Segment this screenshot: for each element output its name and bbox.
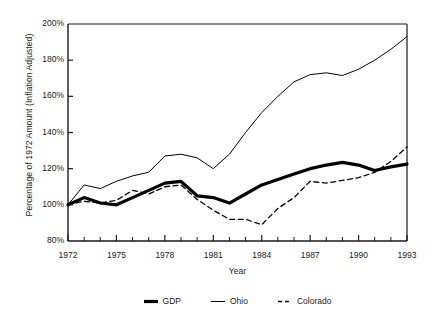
legend-item-colorado: Colorado (278, 296, 332, 306)
axis-lines (68, 24, 407, 241)
thick-solid-line-swatch (144, 297, 158, 306)
legend-label: Ohio (230, 296, 248, 306)
line-chart-figure: Percentage of 1972 Amount (Inflation Adj… (0, 0, 429, 320)
series-line-ohio (68, 37, 407, 205)
legend-item-gdp: GDP (144, 296, 181, 306)
series-line-colorado (68, 147, 407, 225)
x-axis-title: Year (68, 266, 407, 276)
legend-item-ohio: Ohio (211, 296, 248, 306)
dashed-line-swatch (278, 297, 292, 306)
data-series-group (68, 37, 407, 225)
legend-label: GDP (163, 296, 181, 306)
legend-label: Colorado (297, 296, 332, 306)
thin-solid-line-swatch (211, 297, 225, 306)
chart-legend: GDPOhioColorado (68, 296, 407, 306)
axis-tick-marks (68, 60, 407, 241)
